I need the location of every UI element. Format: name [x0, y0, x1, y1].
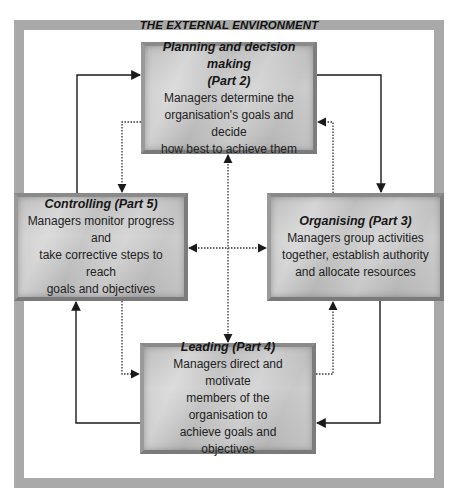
- organising-box: Organising (Part 3) Managers group activ…: [267, 193, 444, 301]
- planning-description-line: organisation's goals and decide: [153, 107, 305, 141]
- leading-title: Leading (Part 4): [181, 339, 275, 356]
- organising-title: Organising (Part 3): [299, 213, 412, 230]
- controlling-title: Controlling (Part 5): [44, 196, 157, 213]
- dotted-arrow-organising-to-planning: [318, 122, 333, 193]
- controlling-box: Controlling (Part 5) Managers monitor pr…: [14, 193, 188, 301]
- controlling-description-line: Managers monitor progress and: [26, 213, 176, 247]
- organising-description-line: and allocate resources: [295, 264, 416, 281]
- planning-description-line: how best to achieve them: [161, 141, 297, 158]
- planning-title-line1: Planning and decision making: [153, 39, 305, 73]
- planning-box: Planning and decision making (Part 2) Ma…: [141, 42, 317, 154]
- planning-title-line2: (Part 2): [207, 73, 250, 90]
- leading-box: Leading (Part 4) Managers direct and mot…: [140, 343, 316, 454]
- organising-description-line: together, establish authority: [282, 247, 429, 264]
- organising-description-line: Managers group activities: [287, 230, 424, 247]
- dotted-arrow-controlling-to-leading: [122, 301, 139, 374]
- arrow-controlling-to-planning: [77, 75, 140, 193]
- leading-description-line: achieve goals and objectives: [152, 424, 304, 458]
- arrow-organising-to-leading: [317, 301, 380, 423]
- arrow-planning-to-organising: [317, 75, 381, 192]
- leading-description-line: members of the organisation to: [152, 390, 304, 424]
- controlling-description-line: take corrective steps to reach: [26, 247, 176, 281]
- leading-description-line: Managers direct and motivate: [152, 356, 304, 390]
- arrow-leading-to-controlling: [76, 302, 140, 423]
- dotted-arrow-planning-to-controlling: [122, 122, 141, 192]
- dotted-arrow-leading-to-organising: [316, 302, 333, 374]
- planning-description-line: Managers determine the: [164, 90, 294, 107]
- controlling-description-line: goals and objectives: [47, 281, 156, 298]
